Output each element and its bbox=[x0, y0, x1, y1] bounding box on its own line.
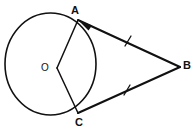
label-point-c: C bbox=[75, 116, 83, 128]
label-center-o: O bbox=[41, 62, 49, 73]
label-point-a: A bbox=[71, 4, 79, 16]
geometry-canvas: A B C O bbox=[0, 0, 196, 130]
radius-oa-line bbox=[57, 20, 78, 68]
circle-shape bbox=[5, 13, 96, 115]
label-point-b: B bbox=[183, 59, 191, 71]
radius-oc-line bbox=[57, 68, 78, 113]
geometry-figure: A B C O bbox=[0, 0, 196, 130]
tangent-ab-line bbox=[78, 20, 180, 67]
tangent-cb-line bbox=[78, 67, 180, 113]
